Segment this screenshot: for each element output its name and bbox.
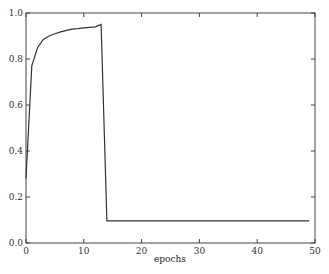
x-tick-label: 20 bbox=[136, 246, 148, 256]
y-tick-label: 0.8 bbox=[9, 54, 24, 64]
y-tick-label: 0.6 bbox=[9, 100, 24, 110]
plot-axes bbox=[26, 13, 315, 243]
axis-ticks: 010203040500.00.20.40.60.81.0 bbox=[9, 8, 321, 256]
x-axis-label: epochs bbox=[154, 254, 186, 264]
plot-frame bbox=[26, 13, 315, 243]
x-tick-label: 40 bbox=[251, 246, 263, 256]
x-tick-label: 10 bbox=[78, 246, 90, 256]
x-tick-label: 50 bbox=[309, 246, 321, 256]
y-tick-label: 0.2 bbox=[9, 192, 23, 202]
data-line bbox=[26, 25, 309, 221]
y-tick-label: 0.4 bbox=[9, 146, 24, 156]
line-chart: 010203040500.00.20.40.60.81.0 epochs bbox=[0, 0, 329, 266]
x-tick-label: 30 bbox=[194, 246, 206, 256]
x-tick-label: 0 bbox=[23, 246, 29, 256]
y-tick-label: 1.0 bbox=[9, 8, 24, 18]
y-tick-label: 0.0 bbox=[9, 238, 24, 248]
